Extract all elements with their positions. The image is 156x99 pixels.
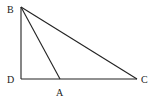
label-c: C [141, 74, 148, 85]
label-a: A [56, 87, 64, 98]
segment-bc [21, 7, 137, 79]
label-d: D [7, 74, 14, 85]
segment-ba [21, 7, 60, 79]
label-b: B [7, 4, 14, 15]
triangle-diagram: B D A C [0, 0, 156, 99]
